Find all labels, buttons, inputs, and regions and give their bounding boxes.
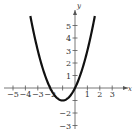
svg-text:−5: −5 <box>7 90 19 99</box>
y-axis-label: y <box>76 2 82 10</box>
svg-text:4: 4 <box>66 34 71 43</box>
svg-text:2: 2 <box>97 90 102 99</box>
svg-text:1: 1 <box>85 90 90 99</box>
svg-text:−3: −3 <box>59 122 71 131</box>
svg-text:3: 3 <box>110 90 115 99</box>
parabola-graph: −5−4−3−212354321−2−3 x y <box>0 0 136 131</box>
svg-text:−2: −2 <box>59 109 71 118</box>
tick-labels: −5−4−3−212354321−2−3 <box>7 22 115 131</box>
x-axis-label: x <box>128 85 132 93</box>
svg-text:−4: −4 <box>20 90 32 99</box>
svg-text:3: 3 <box>66 47 71 56</box>
svg-text:5: 5 <box>66 22 71 31</box>
svg-text:2: 2 <box>66 59 71 68</box>
svg-text:−3: −3 <box>32 90 44 99</box>
svg-text:1: 1 <box>66 72 71 81</box>
